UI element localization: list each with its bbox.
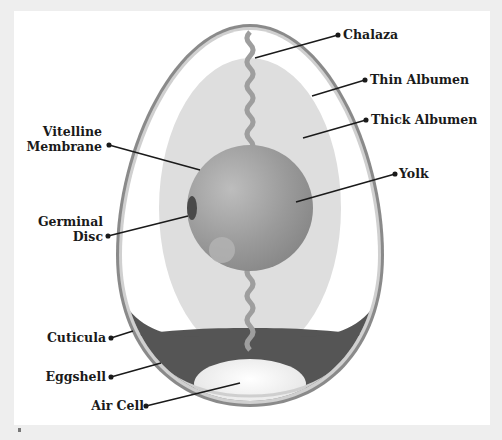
label-vitelline-membrane: Vitelline Membrane (27, 124, 102, 154)
label-germinal-line1: Germinal (38, 214, 103, 229)
label-chalaza: Chalaza (343, 27, 398, 42)
label-yolk: Yolk (399, 166, 429, 181)
label-thin-albumen: Thin Albumen (370, 72, 469, 87)
label-vitelline-line1: Vitelline (27, 124, 102, 139)
label-thick-albumen: Thick Albumen (371, 112, 477, 127)
yolk-highlight (209, 237, 235, 263)
corner-mark (18, 428, 21, 432)
label-vitelline-line2: Membrane (27, 139, 102, 154)
label-eggshell: Eggshell (45, 369, 106, 384)
label-germinal-disc: Germinal Disc (38, 214, 103, 244)
label-air-cell: Air Cell (91, 398, 144, 413)
label-germinal-line2: Disc (38, 229, 103, 244)
yolk (187, 145, 313, 271)
germinal-disc (187, 196, 197, 220)
label-cuticula: Cuticula (47, 330, 106, 345)
